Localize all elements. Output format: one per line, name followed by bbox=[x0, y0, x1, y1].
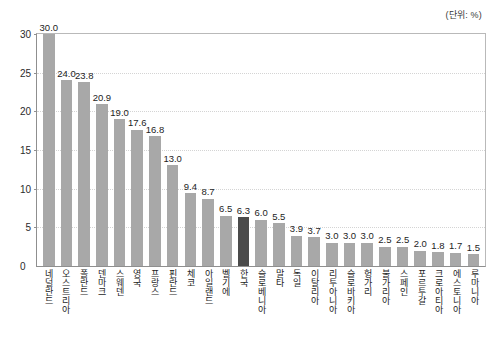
x-axis-label: 에스토니아 bbox=[451, 269, 462, 314]
x-axis-label: 한국 bbox=[238, 269, 249, 287]
bar: 19.0 bbox=[114, 119, 126, 266]
bar: 17.6 bbox=[131, 130, 143, 266]
y-axis-tick-label: 25 bbox=[20, 67, 31, 78]
y-axis-tick-label: 15 bbox=[20, 145, 31, 156]
bar-value-label: 9.4 bbox=[184, 182, 197, 192]
x-axis-label: 프랑스 bbox=[149, 269, 160, 296]
bar-value-label: 8.7 bbox=[201, 187, 214, 197]
bar-slot: 3.0 bbox=[358, 34, 376, 266]
x-axis-label: 루마니아 bbox=[469, 269, 480, 305]
x-axis-label-slot: 스페인 bbox=[394, 269, 412, 341]
y-axis-zero-label: 0 bbox=[20, 261, 26, 272]
bar-slot: 6.5 bbox=[217, 34, 235, 266]
bar: 1.8 bbox=[432, 252, 444, 266]
bar-value-label: 1.5 bbox=[467, 243, 480, 253]
x-axis-label-slot: 리투아니아 bbox=[323, 269, 341, 341]
y-axis-tick-label: 10 bbox=[20, 183, 31, 194]
bar: 24.0 bbox=[61, 80, 73, 266]
y-axis-tick-label: 5 bbox=[25, 222, 31, 233]
plot-area: 51015202530 30.024.023.820.919.017.616.8… bbox=[36, 33, 486, 267]
bar-value-label: 16.8 bbox=[146, 125, 165, 135]
x-axis-label: 체코 bbox=[185, 269, 196, 287]
x-axis-label: 아일랜드 bbox=[203, 269, 214, 305]
bar-slot: 3.9 bbox=[288, 34, 306, 266]
bar-value-label: 2.5 bbox=[396, 235, 409, 245]
bar: 3.0 bbox=[344, 243, 356, 266]
bar-value-label: 23.8 bbox=[75, 71, 94, 81]
bar: 3.0 bbox=[326, 243, 338, 266]
bar-slot: 9.4 bbox=[182, 34, 200, 266]
y-axis-tick-label: 30 bbox=[20, 29, 31, 40]
bar-slot: 1.7 bbox=[447, 34, 465, 266]
bar-value-label: 6.3 bbox=[237, 206, 250, 216]
bar-chart: (단위: %) 51015202530 30.024.023.820.919.0… bbox=[0, 0, 496, 344]
bar: 2.5 bbox=[397, 247, 409, 266]
bar-value-label: 3.9 bbox=[290, 224, 303, 234]
bar-value-label: 17.6 bbox=[128, 118, 147, 128]
x-axis-label: 독일 bbox=[291, 269, 302, 287]
x-axis-label-slot: 핀란드 bbox=[163, 269, 181, 341]
x-axis-label: 폴란드 bbox=[78, 269, 89, 296]
x-axis-label: 헝가리 bbox=[362, 269, 373, 296]
bar: 6.0 bbox=[255, 220, 267, 266]
bar-slot: 19.0 bbox=[111, 34, 129, 266]
x-axis-label: 벨기에 bbox=[220, 269, 231, 296]
x-axis-label: 이탈리아 bbox=[309, 269, 320, 305]
bar-slot: 13.0 bbox=[164, 34, 182, 266]
bar-value-label: 24.0 bbox=[57, 69, 76, 79]
bar-value-label: 13.0 bbox=[163, 154, 182, 164]
bar-value-label: 1.7 bbox=[449, 241, 462, 251]
bar: 9.4 bbox=[185, 193, 197, 266]
x-axis-label-slot: 이탈리아 bbox=[305, 269, 323, 341]
bar-slot: 23.8 bbox=[75, 34, 93, 266]
bar-value-label: 2.0 bbox=[414, 239, 427, 249]
y-axis-tick-label: 20 bbox=[20, 106, 31, 117]
x-axis-label: 포르투갈 bbox=[416, 269, 427, 305]
x-axis-label-slot: 아일랜드 bbox=[199, 269, 217, 341]
bar: 2.0 bbox=[414, 251, 426, 266]
bar-slot: 3.0 bbox=[341, 34, 359, 266]
x-axis-label-slot: 슬로베니아 bbox=[252, 269, 270, 341]
bar: 3.0 bbox=[361, 243, 373, 266]
x-axis-label-slot: 슬로바키아 bbox=[341, 269, 359, 341]
x-axis-label: 스웨덴 bbox=[114, 269, 125, 296]
bar-value-label: 5.5 bbox=[272, 212, 285, 222]
bar-slot: 3.0 bbox=[323, 34, 341, 266]
x-axis-label-slot: 오스트리아 bbox=[57, 269, 75, 341]
x-axis-label-slot: 불가리아 bbox=[377, 269, 395, 341]
bar-series: 30.024.023.820.919.017.616.813.09.48.76.… bbox=[37, 34, 485, 266]
bar: 13.0 bbox=[167, 165, 179, 266]
x-axis-label: 네덜란드 bbox=[43, 269, 54, 305]
x-axis-label-slot: 말타 bbox=[270, 269, 288, 341]
bar-value-label: 1.8 bbox=[431, 241, 444, 251]
bar-slot: 1.8 bbox=[429, 34, 447, 266]
bar: 6.5 bbox=[220, 216, 232, 266]
bar: 3.9 bbox=[291, 236, 303, 266]
bar-value-label: 3.0 bbox=[325, 231, 338, 241]
bar-slot: 1.5 bbox=[465, 34, 483, 266]
bar-slot: 30.0 bbox=[40, 34, 58, 266]
bar-value-label: 3.7 bbox=[308, 226, 321, 236]
bar: 23.8 bbox=[78, 82, 90, 266]
bar: 8.7 bbox=[202, 199, 214, 266]
x-axis-label-slot: 벨기에 bbox=[217, 269, 235, 341]
x-axis-label-slot: 폴란드 bbox=[75, 269, 93, 341]
bar: 16.8 bbox=[149, 136, 161, 266]
bar-value-label: 6.0 bbox=[254, 208, 267, 218]
bar-slot: 2.0 bbox=[411, 34, 429, 266]
x-axis-label-slot: 에스토니아 bbox=[448, 269, 466, 341]
x-axis-label-slot: 프랑스 bbox=[146, 269, 164, 341]
bar-highlighted: 6.3 bbox=[238, 217, 250, 266]
bar-slot: 20.9 bbox=[93, 34, 111, 266]
bar: 5.5 bbox=[273, 223, 285, 266]
x-axis-label-slot: 스웨덴 bbox=[110, 269, 128, 341]
bar-value-label: 3.0 bbox=[343, 231, 356, 241]
x-axis-label: 슬로베니아 bbox=[256, 269, 267, 314]
x-axis-label-slot: 덴마크 bbox=[92, 269, 110, 341]
x-axis-label: 오스트리아 bbox=[60, 269, 71, 314]
x-axis-label-slot: 헝가리 bbox=[359, 269, 377, 341]
x-axis-label: 영국 bbox=[131, 269, 142, 287]
bar-slot: 2.5 bbox=[376, 34, 394, 266]
bar-slot: 6.3 bbox=[235, 34, 253, 266]
x-axis-labels: 네덜란드오스트리아폴란드덴마크스웨덴영국프랑스핀란드체코아일랜드벨기에한국슬로베… bbox=[36, 269, 486, 341]
